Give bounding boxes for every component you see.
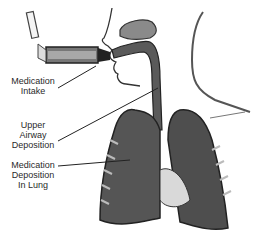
label-medication-intake: Medication Intake — [4, 76, 62, 96]
right-lung — [100, 110, 160, 224]
inhaler-canister — [26, 11, 38, 38]
label-upper-airway-deposition: Upper Airway Deposition — [4, 120, 62, 150]
left-lung — [168, 110, 228, 230]
label-medication-deposition-in-lung: Medication Deposition In Lung — [4, 160, 62, 190]
neck-outline — [192, 12, 250, 112]
mouthpiece — [98, 48, 110, 62]
nasal-cavity — [120, 20, 156, 39]
